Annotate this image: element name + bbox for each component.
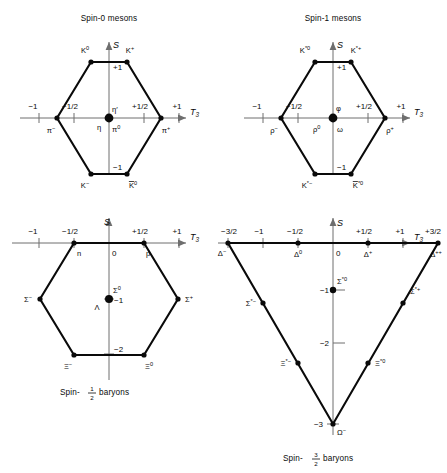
- node-Xi-minus: [71, 352, 76, 357]
- label-rho-minus: ρ−: [270, 125, 278, 135]
- s-label-plus1: +1: [337, 63, 347, 72]
- node-Delta-plusplus: [435, 240, 440, 245]
- node-neutron: [71, 240, 76, 245]
- node-center-Sigma0-Lambda: [105, 295, 113, 303]
- label-pi0: π0: [112, 124, 120, 134]
- tick-label-plus-half: +1/2: [356, 227, 372, 236]
- s-label-minus2: −2: [320, 339, 330, 348]
- t3-axis-label: T3: [190, 107, 200, 118]
- s-axis-label: S: [337, 218, 343, 228]
- panel-title-frac-numerator: 3: [314, 451, 318, 458]
- s-axis-arrow: [330, 42, 337, 50]
- node-K0: [88, 59, 93, 64]
- label-Omega-minus: Ω−: [337, 427, 346, 437]
- node-Sigma-plus: [175, 296, 180, 301]
- label-Sigma-minus: Σ−: [24, 294, 32, 304]
- label-Xi-minus: Ξ−: [64, 361, 72, 371]
- s-label-plus1: +1: [113, 63, 123, 72]
- panel-title-spin-three-half-baryons: Spin- 3 2 baryons: [283, 451, 353, 467]
- node-Xistar-minus: [295, 360, 300, 365]
- label-Delta-minus: Δ−: [218, 248, 226, 258]
- label-Delta-plusplus: Δ++: [430, 249, 442, 259]
- label-proton: p: [146, 249, 150, 258]
- s-label-minus1: −1: [320, 286, 330, 295]
- label-Delta-plus: Δ+: [364, 249, 372, 259]
- panel-title-spin0-mesons: Spin-0 mesons: [81, 14, 138, 23]
- node-Omega-minus: [330, 421, 335, 426]
- node-Kplus: [124, 59, 129, 64]
- node-Sigmastar-minus: [260, 300, 265, 305]
- node-Delta-minus: [225, 240, 230, 245]
- node-rho-plus: [382, 115, 387, 120]
- particle-multiplet-figure: Spin-0 mesons T3 S −1 −1/2 +1/2 +1 +1 −1: [0, 0, 447, 473]
- t3-axis-label: T3: [414, 107, 424, 118]
- tick-label-plus-half: +1/2: [132, 102, 148, 111]
- node-Sigma-minus: [37, 296, 42, 301]
- label-Xi0: Ξ0: [145, 361, 153, 371]
- label-Kstar0bar: K*0: [353, 180, 363, 190]
- s-label-0: 0: [336, 249, 341, 258]
- label-Kplus: K+: [126, 45, 134, 55]
- s-label-minus1: −1: [113, 163, 123, 172]
- s-axis-arrow: [106, 42, 113, 50]
- label-pi-plus: π+: [162, 125, 171, 135]
- tick-label-plus1: +1: [396, 102, 406, 111]
- node-pi-minus: [54, 115, 59, 120]
- panel-spin-half-baryons: T3 S −1 −1/2 +1/2 +1 0 −1 −2: [12, 217, 200, 401]
- t3-ticks-baryon-octet: −1 −1/2 +1/2 +1: [28, 227, 182, 248]
- node-Xi0: [141, 352, 146, 357]
- tick-label-minus1: −1: [254, 227, 264, 236]
- s-label-minus2: −2: [114, 345, 124, 354]
- tick-label-minus1: −1: [28, 102, 38, 111]
- label-Kstar-minus: K*−: [302, 180, 313, 190]
- label-Sigma0: Σ0: [113, 285, 121, 295]
- label-Sigmastar-plus: Σ*+: [410, 286, 420, 296]
- tick-label-minus1: −1: [28, 227, 38, 236]
- tick-label-plus1: +1: [395, 227, 405, 236]
- node-Xistar0: [365, 360, 370, 365]
- label-K0bar: K0: [129, 180, 137, 190]
- panel-title-frac-numerator: 1: [90, 385, 94, 392]
- label-neutron: n: [77, 249, 81, 258]
- panel-spin0-mesons: Spin-0 mesons T3 S −1 −1/2 +1/2 +1 +1 −1: [20, 14, 200, 190]
- label-Sigmastar0: Σ*0: [337, 276, 347, 286]
- node-Kstar0: [312, 59, 317, 64]
- panel-title-spin1-mesons: Spin-1 mesons: [305, 14, 362, 23]
- t3-ticks-baryon-decuplet: −3/2 −1 −1/2 +1/2 +1 +3/2: [221, 227, 441, 248]
- t3-axis-label: T3: [190, 232, 200, 243]
- node-Sigmastar-plus: [400, 300, 405, 305]
- node-Delta-plus: [365, 240, 370, 245]
- s-ticks-baryon-decuplet: 0 −1 −2 −3: [314, 249, 345, 429]
- panel-title-prefix: Spin-: [60, 388, 80, 397]
- label-omega: ω: [337, 125, 343, 134]
- panel-title-suffix: baryons: [99, 388, 129, 397]
- tick-label-plus-half: +1/2: [356, 102, 372, 111]
- panel-spin-three-half-baryons: T3 S −3/2 −1 −1/2 +1/2 +1 +3/2 0 −1 −2 −…: [218, 218, 442, 467]
- label-Delta0: Δ0: [294, 249, 302, 259]
- node-rho-minus: [278, 115, 283, 120]
- node-Delta0: [295, 240, 300, 245]
- tick-label-plus1: +1: [172, 227, 182, 236]
- label-pi-minus: π−: [47, 125, 56, 135]
- node-center-rho0-omega-phi: [329, 114, 338, 123]
- tick-label-minus-half: −1/2: [287, 227, 303, 236]
- s-axis-label: S: [113, 40, 119, 50]
- node-Kminus: [88, 171, 93, 176]
- panel-title-prefix: Spin-: [283, 454, 303, 463]
- label-phi: φ: [336, 104, 341, 113]
- label-rho0: ρ0: [313, 124, 320, 134]
- t3-axis-label: T3: [414, 232, 424, 243]
- label-rho-plus: ρ+: [386, 125, 394, 135]
- node-K0bar: [124, 171, 129, 176]
- s-label-minus1: −1: [337, 163, 347, 172]
- tick-label-minus-3-2: −3/2: [221, 227, 237, 236]
- label-Kminus: K−: [81, 180, 89, 190]
- label-Kstar-plus: K*+: [351, 45, 362, 55]
- label-Xistar-minus: Ξ*−: [281, 358, 291, 368]
- label-eta: η: [97, 123, 101, 132]
- label-Sigmastar-minus: Σ*−: [246, 298, 256, 308]
- tick-label-plus-3-2: +3/2: [425, 227, 441, 236]
- s-axis-label: S: [337, 40, 343, 50]
- label-Sigma-plus: Σ+: [185, 294, 193, 304]
- label-K0: K0: [81, 45, 89, 55]
